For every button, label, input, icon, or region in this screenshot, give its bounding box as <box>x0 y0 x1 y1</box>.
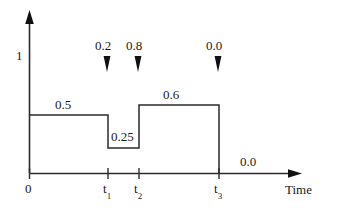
step-value-label-3: 0.0 <box>240 155 256 168</box>
down-arrow-icon-event-2 <box>215 56 222 72</box>
step-function-figure: 1 0.2 0.8 0.0 0.5 0.25 0.6 0.0 0 t1 t2 t… <box>0 0 337 211</box>
step-value-label-2: 0.6 <box>163 88 179 101</box>
x-axis-name-label: Time <box>285 183 312 196</box>
plot-canvas <box>0 0 337 211</box>
y-axis-tick-label: 1 <box>16 49 23 62</box>
x-tick-label-t2: t2 <box>134 182 142 199</box>
x-tick-label-t1-subscript: 1 <box>107 191 112 201</box>
x-tick-label-t3-subscript: 3 <box>218 191 223 201</box>
x-axis <box>30 169 303 177</box>
x-axis-arrowhead-icon <box>288 169 302 177</box>
x-tick-label-0: 0 <box>25 182 32 195</box>
x-tick-label-0-base: 0 <box>25 181 32 196</box>
step-value-label-1: 0.25 <box>111 130 134 143</box>
y-axis-arrowhead-icon <box>25 10 34 24</box>
event-arrow-markers <box>104 56 222 72</box>
x-tick-label-t2-subscript: 2 <box>138 191 143 201</box>
down-arrow-icon-event-1 <box>135 56 142 72</box>
event-value-label-1: 0.8 <box>126 39 142 52</box>
event-value-label-2: 0.0 <box>206 39 222 52</box>
x-tick-label-t1: t1 <box>103 182 111 199</box>
y-axis <box>25 10 34 173</box>
x-tick-label-t3: t3 <box>214 182 222 199</box>
down-arrow-icon-event-0 <box>104 56 111 72</box>
step-value-label-0: 0.5 <box>55 98 71 111</box>
event-value-label-0: 0.2 <box>95 39 111 52</box>
